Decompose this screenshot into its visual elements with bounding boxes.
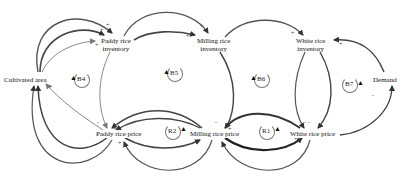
loop-r2-arrow-icon: ▲ (180, 125, 187, 133)
node-paddy-rice-price: Paddy rice price (96, 130, 141, 138)
loop-b7-label: B7 (345, 80, 353, 88)
svg-text:+: + (95, 42, 99, 48)
loop-r2-label: R2 (168, 127, 176, 135)
svg-text:+: + (200, 23, 204, 29)
node-white-rice-inventory: White rice inventory (296, 37, 325, 53)
node-milling-rice-inventory-line1: Milling rice (197, 37, 230, 45)
link-paddy-price-to-cultivated-1 (46, 84, 103, 130)
node-milling-rice-price: Milling rice price (190, 130, 239, 138)
link-milling-price-to-paddy-price-bottom (124, 140, 212, 170)
node-milling-rice-inventory: Milling rice inventory (197, 37, 230, 53)
loop-b5-label: B5 (170, 69, 178, 77)
svg-text:+: + (291, 30, 295, 36)
node-paddy-rice-inventory-line2: inventory (101, 45, 131, 53)
loop-b6-arrow-icon: ▲ (250, 74, 257, 82)
node-white-rice-price: White rice price (290, 130, 335, 138)
loop-b4-label: B4 (77, 75, 85, 83)
svg-text:-: - (215, 119, 217, 125)
link-milling-price-to-paddy-price-mid (116, 118, 200, 130)
link-cultivated-to-paddy-inventory-2 (40, 30, 104, 72)
link-milling-price-to-white-price (225, 138, 302, 150)
loop-r1-label: R1 (262, 127, 270, 135)
loop-b5-arrow-icon: ▲ (163, 68, 170, 76)
svg-text:+: + (100, 27, 104, 33)
node-demand: Demand (373, 76, 397, 84)
link-milling-inv-to-milling-price (220, 52, 234, 128)
node-milling-rice-inventory-line2: inventory (197, 45, 230, 53)
svg-text:-: - (97, 119, 99, 125)
link-paddy-inv-to-paddy-price (100, 52, 110, 128)
svg-text:+: + (118, 140, 122, 146)
node-white-rice-inventory-line1: White rice (296, 37, 325, 45)
link-white-inv-to-white-price-1 (295, 52, 305, 128)
link-white-price-to-demand (340, 86, 392, 135)
node-white-rice-inventory-line2: inventory (296, 45, 325, 53)
link-paddy-price-to-cultivated-2 (38, 86, 108, 148)
svg-text:-: - (372, 92, 374, 98)
link-white-inv-to-white-price-2 (318, 52, 331, 128)
svg-text:+: + (339, 41, 343, 47)
svg-text:+: + (106, 22, 110, 28)
node-paddy-rice-inventory: Paddy rice inventory (101, 37, 131, 53)
loop-r1-arrow-icon: ▲ (274, 125, 281, 133)
loop-b4-arrow-icon: ▲ (70, 74, 77, 82)
svg-text:-: - (304, 119, 306, 125)
link-paddy-price-to-milling-price (125, 138, 200, 148)
loop-b6-label: B6 (257, 75, 265, 83)
svg-text:+: + (49, 84, 53, 90)
node-cultivated-area: Cultivated area (4, 76, 47, 84)
node-paddy-rice-inventory-line1: Paddy rice (101, 37, 131, 45)
loop-b7-arrow-icon: ▲ (357, 79, 364, 87)
svg-text:-: - (308, 119, 310, 125)
